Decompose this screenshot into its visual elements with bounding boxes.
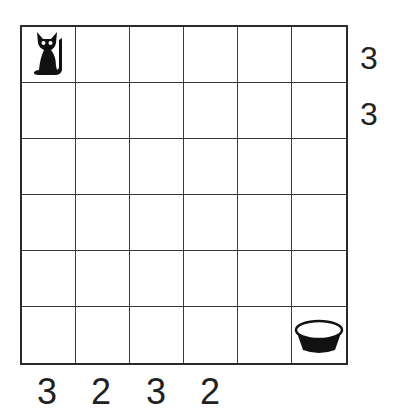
grid-cell-r6-c1[interactable] [22, 307, 76, 363]
grid-cell-r6-c3[interactable] [130, 307, 184, 363]
col-clue-2: 2 [91, 374, 111, 410]
cat-icon [33, 30, 65, 80]
grid-cell-r6-c5[interactable] [238, 307, 292, 363]
grid-cell-r3-c3[interactable] [130, 139, 184, 195]
grid-cell-r2-c5[interactable] [238, 83, 292, 139]
puzzle-grid [20, 25, 348, 365]
row-clue-1: 3 [360, 42, 378, 74]
grid-cell-r6-c4[interactable] [184, 307, 238, 363]
col-clue-3: 3 [146, 374, 166, 410]
grid-cell-r1-c6[interactable] [292, 27, 346, 83]
grid-cell-r3-c4[interactable] [184, 139, 238, 195]
grid-cell-r4-c3[interactable] [130, 195, 184, 251]
grid-cell-r5-c1[interactable] [22, 251, 76, 307]
col-clue-1: 3 [37, 374, 57, 410]
grid-cell-r4-c6[interactable] [292, 195, 346, 251]
grid-cell-r2-c6[interactable] [292, 83, 346, 139]
grid-cell-r1-c3[interactable] [130, 27, 184, 83]
grid-cell-r5-c6[interactable] [292, 251, 346, 307]
grid-cell-r4-c2[interactable] [76, 195, 130, 251]
grid-cell-r3-c6[interactable] [292, 139, 346, 195]
grid-cell-r1-c5[interactable] [238, 27, 292, 83]
grid-cell-r5-c2[interactable] [76, 251, 130, 307]
grid-cell-r6-c2[interactable] [76, 307, 130, 363]
grid-cell-r1-c1[interactable] [22, 27, 76, 83]
bowl-icon [293, 319, 345, 359]
grid-cell-r4-c5[interactable] [238, 195, 292, 251]
grid-cell-r4-c1[interactable] [22, 195, 76, 251]
col-clue-4: 2 [200, 374, 220, 410]
grid-cell-r1-c4[interactable] [184, 27, 238, 83]
grid-cell-r3-c1[interactable] [22, 139, 76, 195]
grid-cell-r6-c6[interactable] [292, 307, 346, 363]
row-clue-2: 3 [360, 98, 378, 130]
grid-cell-r5-c4[interactable] [184, 251, 238, 307]
grid-cell-r3-c5[interactable] [238, 139, 292, 195]
grid-cell-r2-c1[interactable] [22, 83, 76, 139]
grid-cell-r5-c3[interactable] [130, 251, 184, 307]
grid-cell-r2-c2[interactable] [76, 83, 130, 139]
grid-cell-r2-c3[interactable] [130, 83, 184, 139]
grid-cell-r2-c4[interactable] [184, 83, 238, 139]
grid-cell-r5-c5[interactable] [238, 251, 292, 307]
grid-cell-r1-c2[interactable] [76, 27, 130, 83]
grid-cell-r4-c4[interactable] [184, 195, 238, 251]
grid-cell-r3-c2[interactable] [76, 139, 130, 195]
